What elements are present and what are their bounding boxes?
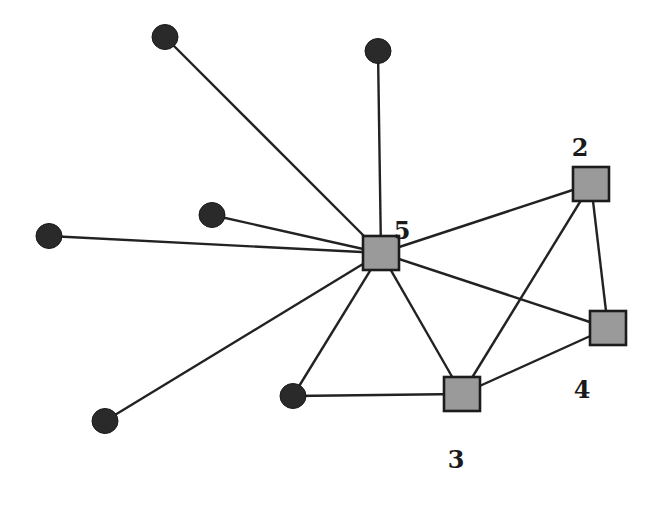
node-labels-layer: 5243 [394,133,591,474]
edge-5-2 [381,184,591,253]
edge-c6-5 [293,253,381,396]
circle-node [280,384,306,409]
edge-5-4 [381,253,608,328]
edge-c1-5 [165,37,381,253]
circle-node [365,39,391,64]
circle-node [199,203,225,228]
edge-c4-5 [49,236,381,253]
edge-5-3 [381,253,462,394]
node-label-4: 4 [574,375,591,404]
circle-node [36,224,62,249]
edge-c3-5 [212,215,381,253]
square-node-4 [590,311,626,345]
edge-2-4 [591,184,608,328]
node-label-2: 2 [572,133,589,162]
square-node-2 [573,167,609,201]
square-node-3 [444,377,480,411]
edge-c2-5 [378,51,381,253]
circle-node [152,25,178,50]
edges-layer [49,37,608,421]
node-label-3: 3 [448,445,465,474]
node-label-5: 5 [394,216,411,245]
edge-c6-3 [293,394,462,396]
edge-2-3 [462,184,591,394]
network-graph: 5243 [0,0,663,507]
circle-node [92,409,118,434]
